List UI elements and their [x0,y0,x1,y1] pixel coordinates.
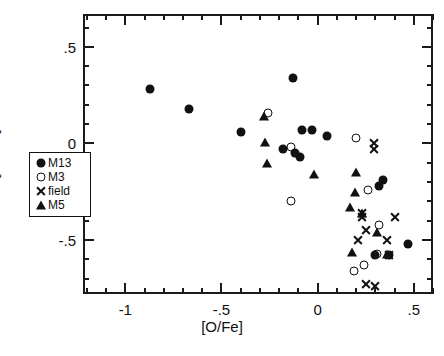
legend-filled-triangle-icon [34,198,48,212]
x-tick [278,288,280,294]
y-tick [427,258,433,260]
y-tick [422,142,433,144]
y-axis-label: [Na/Fe] [0,129,1,178]
y-tick [83,278,89,280]
x-tick [220,283,222,294]
y-tick [427,200,433,202]
data-point-m5 [259,112,269,121]
x-tick [182,14,184,20]
x-tick [105,288,107,294]
x-tick [432,14,434,20]
x-tick-label: -1 [119,301,132,318]
data-point-m3 [359,261,368,270]
data-point-m13 [184,104,193,113]
x-tick-label: .5 [408,301,421,318]
y-tick [427,162,433,164]
data-point-m3 [373,249,382,258]
y-tick [427,104,433,106]
legend-label: field [48,184,70,198]
legend-item-m13: M13 [34,156,86,170]
x-tick [86,14,88,20]
data-point-field [361,279,371,289]
y-tick [427,27,433,29]
y-tick [427,278,433,280]
data-point-m3 [286,197,295,206]
x-tick [182,288,184,294]
legend-cross-icon [34,184,48,198]
legend-label: M5 [48,198,65,212]
x-tick [317,283,319,294]
x-tick [297,14,299,20]
y-tick [427,181,433,183]
data-point-m5 [357,209,367,218]
y-tick-label: -.5 [58,231,76,248]
legend-box: M13M3fieldM5 [29,152,91,217]
data-points-layer [85,16,431,292]
y-tick [83,142,94,144]
x-tick-label: -.5 [213,301,231,318]
x-tick [432,288,434,294]
data-point-field [369,138,379,148]
x-tick [201,14,203,20]
data-point-m3 [286,143,295,152]
data-point-m13 [298,125,307,134]
y-tick [83,27,89,29]
x-tick [374,14,376,20]
x-tick-label: 0 [313,301,321,318]
x-tick [259,14,261,20]
data-point-m3 [352,133,361,142]
data-point-m13 [404,239,413,248]
legend-label: M13 [48,156,71,170]
y-tick-label: 0 [68,135,76,152]
scatter-plot-figure: -1-.50.5.50-.5 [O/Fe] [Na/Fe] M13M3field… [0,0,444,356]
data-point-m5 [345,203,355,212]
x-tick [278,14,280,20]
y-tick [427,84,433,86]
x-tick [297,288,299,294]
y-tick [422,239,433,241]
x-tick [394,14,396,20]
y-tick [83,104,89,106]
x-tick [240,288,242,294]
legend-item-m3: M3 [34,170,86,184]
data-point-field [390,212,400,222]
data-point-m13 [375,181,384,190]
y-tick [83,84,89,86]
data-point-m5 [350,187,360,196]
x-tick [336,288,338,294]
data-point-m13 [288,73,297,82]
y-tick [427,220,433,222]
x-tick [355,288,357,294]
x-tick [336,14,338,20]
y-tick [83,46,94,48]
x-tick [413,14,415,25]
data-point-m13 [307,125,316,134]
x-tick [394,288,396,294]
x-tick [201,288,203,294]
legend-open-circle-icon [34,170,48,184]
data-point-m13 [296,153,305,162]
y-tick [83,239,94,241]
data-point-m5 [372,228,382,237]
legend-filled-circle-icon [34,156,48,170]
x-tick [124,283,126,294]
data-point-m5 [351,168,361,177]
data-point-field [382,235,392,245]
y-tick [83,65,89,67]
y-tick [83,220,89,222]
x-tick [144,288,146,294]
x-tick [240,14,242,20]
legend-label: M3 [48,170,65,184]
data-point-field [361,225,371,235]
x-tick [163,14,165,20]
y-tick-label: .5 [63,38,76,55]
x-tick [259,288,261,294]
legend-item-field: field [34,184,86,198]
y-tick [427,65,433,67]
data-point-m5 [309,170,319,179]
data-point-field [353,235,363,245]
x-tick [105,14,107,20]
data-point-m13 [236,127,245,136]
data-point-m5 [260,137,270,146]
x-tick [163,288,165,294]
